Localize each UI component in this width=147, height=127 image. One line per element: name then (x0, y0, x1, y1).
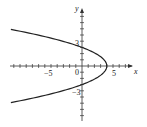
axes (10, 8, 133, 121)
y-tick-label-neg3: −3 (72, 88, 81, 97)
y-tick-label-3: 3 (75, 39, 79, 48)
x-tick-label-neg5: −5 (44, 69, 53, 78)
x-tick-label-5: 5 (112, 69, 116, 78)
origin-label: 0 (75, 68, 79, 77)
x-axis-label: x (133, 67, 138, 76)
y-axis-label: y (74, 4, 79, 13)
parabola-graph: y x 0 −5 5 3 −3 (0, 0, 147, 127)
